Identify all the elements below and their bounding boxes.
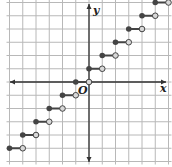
open-dot-icon	[152, 13, 158, 19]
open-dot-icon	[33, 132, 39, 138]
closed-dot-icon	[20, 132, 26, 138]
closed-dot-icon	[86, 66, 92, 72]
closed-dot-icon	[139, 13, 145, 19]
x-axis-label: x	[159, 82, 167, 95]
y-axis-label: y	[92, 4, 101, 17]
open-dot-icon	[139, 26, 145, 32]
open-dot-icon	[60, 106, 66, 112]
origin-label: O	[78, 84, 88, 97]
step-function-graph: y x O	[0, 0, 172, 167]
closed-dot-icon	[46, 106, 52, 112]
open-dot-icon	[20, 145, 26, 151]
x-axis-arrow-left-icon	[10, 80, 15, 85]
open-dot-icon	[126, 39, 132, 45]
closed-dot-icon	[60, 92, 66, 98]
open-dot-icon	[166, 0, 172, 5]
closed-dot-icon	[152, 0, 158, 5]
open-dot-icon	[113, 53, 119, 59]
closed-dot-icon	[7, 145, 13, 151]
closed-dot-icon	[126, 26, 132, 32]
open-dot-icon	[99, 66, 105, 72]
closed-dot-icon	[113, 39, 119, 45]
open-dot-icon	[46, 119, 52, 125]
closed-dot-icon	[99, 53, 105, 59]
closed-dot-icon	[33, 119, 39, 125]
y-axis-arrow-up-icon	[87, 4, 92, 9]
